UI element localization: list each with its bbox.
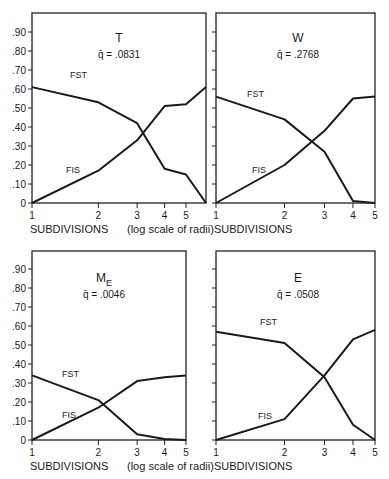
x-tick-label: 4 — [350, 210, 356, 221]
panel-title-main: E — [294, 271, 302, 285]
q-bar-value: q̄ = .0831 — [98, 49, 140, 60]
figure-canvas: 0.10.20.30.40.50.60.70.80.9012345SUBDIVI… — [0, 0, 389, 479]
panel-title-main: M — [96, 271, 106, 285]
series-line-fis — [216, 97, 375, 203]
x-tick-label: 5 — [183, 210, 189, 221]
chart-panel-1: 0.10.20.30.40.50.60.70.80.9012345SUBDIVI… — [12, 13, 214, 235]
x-tick-label: 5 — [372, 210, 378, 221]
y-tick-label: .40 — [12, 122, 26, 133]
series-line-fst — [32, 375, 186, 440]
y-tick-label: .40 — [12, 359, 26, 370]
x-tick-label: 5 — [183, 447, 189, 458]
y-tick-label: .60 — [12, 84, 26, 95]
x-tick-label: 2 — [96, 447, 102, 458]
panel-title-subscript: E — [106, 278, 112, 288]
y-tick-label: .70 — [12, 302, 26, 313]
q-bar-value: q̄ = .0508 — [277, 289, 319, 300]
panel-title-main: W — [292, 31, 304, 45]
y-tick-label: .90 — [12, 27, 26, 38]
fst-label: FST — [247, 89, 265, 99]
y-tick-label: .20 — [12, 397, 26, 408]
x-axis-note: (log scale of radii) — [127, 460, 214, 472]
chart-panel-3: 0.10.20.30.40.50.60.70.80.9012345SUBDIVI… — [12, 251, 214, 472]
panel-title: ME — [96, 271, 112, 288]
x-tick-label: 2 — [96, 210, 102, 221]
y-tick-label: .70 — [12, 65, 26, 76]
fis-label: FIS — [258, 411, 272, 421]
x-axis-title: SUBDIVISIONS — [214, 460, 292, 472]
x-tick-label: 3 — [134, 447, 140, 458]
x-tick-label: 4 — [162, 210, 168, 221]
x-tick-label: 1 — [29, 447, 35, 458]
fst-label: FST — [62, 369, 80, 379]
x-tick-label: 5 — [372, 447, 378, 458]
series-line-fst — [216, 332, 375, 440]
x-axis-title: SUBDIVISIONS — [30, 223, 108, 235]
panel-title: W — [292, 31, 304, 45]
x-tick-label: 4 — [350, 447, 356, 458]
q-bar-value: q̄ = .2768 — [277, 49, 319, 60]
x-tick-label: 1 — [213, 447, 219, 458]
y-tick-label: .90 — [12, 264, 26, 275]
x-axis-title: SUBDIVISIONS — [30, 460, 108, 472]
y-tick-label: 0 — [20, 198, 26, 209]
y-tick-label: .30 — [12, 141, 26, 152]
y-tick-label: .30 — [12, 378, 26, 389]
x-tick-label: 1 — [213, 210, 219, 221]
series-line-fis — [32, 375, 186, 440]
y-tick-label: 0 — [20, 435, 26, 446]
panel-title: E — [294, 271, 302, 285]
y-tick-label: .50 — [12, 103, 26, 114]
y-tick-label: .80 — [12, 283, 26, 294]
x-axis-title: SUBDIVISIONS — [214, 223, 292, 235]
y-tick-label: .50 — [12, 340, 26, 351]
fst-label: FST — [70, 70, 88, 80]
fst-label: FST — [260, 317, 278, 327]
q-bar-value: q̄ = .0046 — [83, 289, 125, 300]
x-tick-label: 4 — [162, 447, 168, 458]
x-tick-label: 3 — [322, 210, 328, 221]
chart-panel-2: 12345SUBDIVISIONSWq̄ = .2768FSTFIS — [212, 13, 378, 235]
fis-label: FIS — [66, 165, 80, 175]
x-tick-label: 3 — [322, 447, 328, 458]
series-line-fis — [32, 87, 206, 203]
panel-title-main: T — [115, 31, 123, 45]
x-tick-label: 2 — [282, 210, 288, 221]
x-tick-label: 2 — [282, 447, 288, 458]
x-tick-label: 3 — [134, 210, 140, 221]
fis-label: FIS — [62, 410, 76, 420]
series-line-fst — [216, 97, 375, 203]
y-tick-label: .20 — [12, 160, 26, 171]
y-tick-label: .10 — [12, 416, 26, 427]
x-axis-note: (log scale of radii) — [127, 223, 214, 235]
fis-label: FIS — [252, 165, 266, 175]
x-tick-label: 1 — [29, 210, 35, 221]
y-tick-label: .80 — [12, 46, 26, 57]
y-tick-label: .60 — [12, 321, 26, 332]
panel-title: T — [115, 31, 123, 45]
chart-panel-4: 12345SUBDIVISIONSEq̄ = .0508FSTFIS — [212, 251, 378, 472]
y-tick-label: .10 — [12, 179, 26, 190]
